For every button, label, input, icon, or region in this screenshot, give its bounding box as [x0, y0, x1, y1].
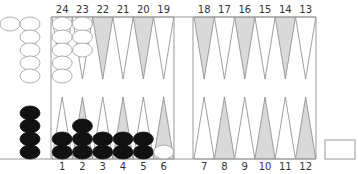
white-checker[interactable]	[20, 30, 40, 44]
black-checker[interactable]	[72, 145, 92, 159]
white-checker[interactable]	[52, 69, 72, 83]
point-label: 23	[76, 4, 89, 15]
point-label: 12	[299, 161, 312, 172]
point-label: 4	[120, 161, 126, 172]
point-19[interactable]	[154, 17, 174, 79]
point-21[interactable]	[113, 17, 133, 79]
point-13[interactable]	[296, 17, 316, 79]
white-checker[interactable]	[0, 17, 20, 31]
white-checker[interactable]	[72, 30, 92, 44]
point-9[interactable]	[235, 97, 255, 159]
white-checker[interactable]	[72, 17, 92, 31]
point-label: 5	[140, 161, 146, 172]
white-checker[interactable]	[154, 145, 174, 159]
point-label: 2	[79, 161, 85, 172]
point-label: 11	[279, 161, 292, 172]
point-17[interactable]	[214, 17, 234, 79]
point-10[interactable]	[255, 97, 275, 159]
white-checker[interactable]	[72, 43, 92, 57]
backgammon-board: 242322212019181716151413 123456789101112	[0, 0, 358, 174]
black-checker[interactable]	[72, 132, 92, 146]
black-checker[interactable]	[93, 132, 113, 146]
point-15[interactable]	[255, 17, 275, 79]
point-12[interactable]	[296, 97, 316, 159]
white-checker[interactable]	[20, 69, 40, 83]
white-checker[interactable]	[52, 17, 72, 31]
black-checker[interactable]	[20, 145, 40, 159]
point-label: 24	[56, 4, 69, 15]
white-checker[interactable]	[20, 17, 40, 31]
point-label: 16	[238, 4, 251, 15]
doubling-cube-box[interactable]	[325, 140, 355, 159]
point-label: 22	[96, 4, 109, 15]
black-checker[interactable]	[113, 132, 133, 146]
black-checker[interactable]	[52, 145, 72, 159]
point-label: 6	[160, 161, 166, 172]
white-checker[interactable]	[20, 43, 40, 57]
top-point-labels: 242322212019181716151413	[56, 4, 312, 15]
point-label: 7	[201, 161, 207, 172]
point-16[interactable]	[235, 17, 255, 79]
black-checker[interactable]	[93, 145, 113, 159]
point-7[interactable]	[194, 97, 214, 159]
bottom-point-labels: 123456789101112	[59, 161, 312, 172]
point-label: 1	[59, 161, 65, 172]
checkers-layer	[52, 17, 173, 159]
point-22[interactable]	[93, 17, 113, 79]
point-label: 10	[259, 161, 272, 172]
black-checker[interactable]	[133, 145, 153, 159]
black-checker[interactable]	[52, 132, 72, 146]
point-label: 21	[117, 4, 130, 15]
point-label: 14	[279, 4, 292, 15]
point-20[interactable]	[133, 17, 153, 79]
white-checker[interactable]	[52, 43, 72, 57]
black-checker[interactable]	[20, 106, 40, 120]
black-checker[interactable]	[20, 119, 40, 133]
point-14[interactable]	[275, 17, 295, 79]
white-checker[interactable]	[20, 56, 40, 70]
point-label: 8	[221, 161, 227, 172]
point-8[interactable]	[214, 97, 234, 159]
point-11[interactable]	[275, 97, 295, 159]
white-checker[interactable]	[52, 30, 72, 44]
white-checker[interactable]	[52, 56, 72, 70]
point-label: 9	[242, 161, 248, 172]
borne-off-area	[0, 17, 40, 159]
point-label: 19	[157, 4, 170, 15]
black-checker[interactable]	[72, 119, 92, 133]
black-checker[interactable]	[133, 132, 153, 146]
point-label: 17	[218, 4, 231, 15]
point-label: 20	[137, 4, 150, 15]
black-checker[interactable]	[20, 132, 40, 146]
point-label: 15	[259, 4, 272, 15]
point-label: 18	[198, 4, 211, 15]
black-checker[interactable]	[113, 145, 133, 159]
point-18[interactable]	[194, 17, 214, 79]
point-label: 3	[100, 161, 106, 172]
point-label: 13	[299, 4, 312, 15]
